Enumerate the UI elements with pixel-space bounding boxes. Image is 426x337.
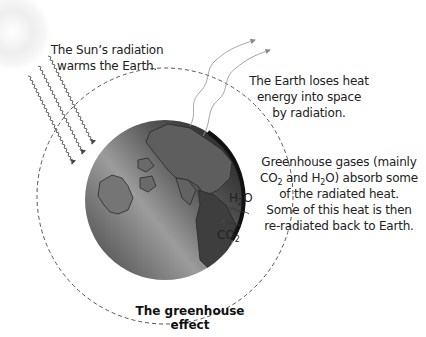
loss-label-line: The Earth loses heat: [244, 73, 374, 89]
earth-globe: [85, 120, 245, 280]
gh-text: O) absorb some: [325, 171, 418, 185]
sun-label-line: warms the Earth.: [22, 58, 192, 74]
gh-label-line: Greenhouse gases (mainly: [254, 154, 424, 170]
gh-label-line: re-radiated back to Earth.: [254, 218, 424, 234]
h2o-base: H: [229, 191, 238, 205]
co2-sub: 2: [235, 235, 240, 244]
diagram-caption: The greenhouse effect: [120, 304, 260, 332]
gh-text: and H: [282, 171, 320, 185]
sun-label-line: The Sun’s radiation: [22, 42, 192, 58]
h2o-label: H2O: [229, 191, 253, 205]
sun-radiation-label: The Sun’s radiation warms the Earth.: [22, 42, 192, 74]
co2-label: CO2: [217, 228, 240, 242]
h2o-tail: O: [243, 191, 252, 205]
gh-label-line: Some of this heat is then: [254, 202, 424, 218]
gh-text: CO: [260, 171, 277, 185]
greenhouse-gases-label: Greenhouse gases (mainly CO2 and H2O) ab…: [254, 154, 424, 234]
earth-loss-label: The Earth loses heat energy into space b…: [244, 73, 374, 121]
loss-label-line: by radiation.: [244, 105, 374, 121]
gh-label-line: of the radiated heat.: [254, 186, 424, 202]
co2-base: CO: [217, 228, 235, 242]
gh-label-line: CO2 and H2O) absorb some: [254, 170, 424, 186]
loss-label-line: energy into space: [244, 89, 374, 105]
